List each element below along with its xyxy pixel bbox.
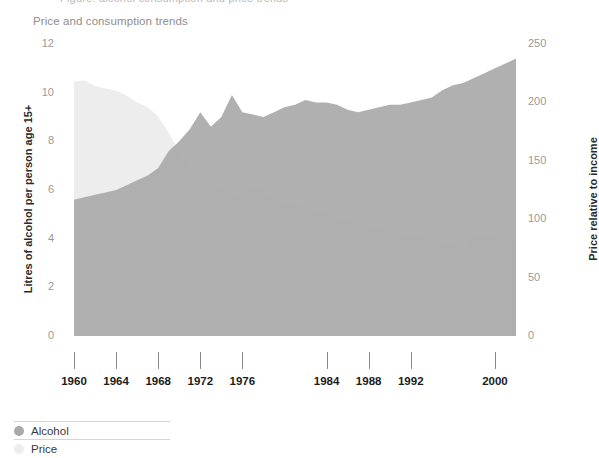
chart-legend: Alcohol Price bbox=[14, 421, 170, 457]
x-tick-mark bbox=[411, 352, 412, 369]
legend-swatch-price bbox=[14, 444, 24, 454]
x-tick-label: 1972 bbox=[187, 375, 213, 387]
x-tick-mark bbox=[116, 352, 117, 369]
x-tick-label: 1968 bbox=[145, 375, 171, 387]
x-tick-mark bbox=[327, 352, 328, 369]
x-tick-mark bbox=[369, 352, 370, 369]
x-tick-mark bbox=[158, 352, 159, 369]
legend-item-alcohol[interactable]: Alcohol bbox=[14, 422, 170, 439]
legend-label-price: Price bbox=[31, 443, 57, 455]
legend-label-alcohol: Alcohol bbox=[31, 425, 69, 437]
x-tick-label: 1976 bbox=[230, 375, 256, 387]
x-tick-label: 1960 bbox=[61, 375, 87, 387]
legend-item-price[interactable]: Price bbox=[14, 440, 170, 457]
x-tick-label: 1992 bbox=[398, 375, 424, 387]
x-tick-mark bbox=[495, 352, 496, 369]
x-tick-label: 2000 bbox=[482, 375, 508, 387]
x-tick-mark bbox=[242, 352, 243, 369]
legend-swatch-alcohol bbox=[14, 426, 24, 436]
x-tick-label: 1988 bbox=[356, 375, 382, 387]
x-tick-label: 1984 bbox=[314, 375, 340, 387]
x-tick-label: 1964 bbox=[103, 375, 129, 387]
x-tick-mark bbox=[200, 352, 201, 369]
x-tick-mark bbox=[74, 352, 75, 369]
